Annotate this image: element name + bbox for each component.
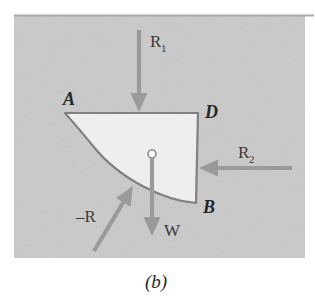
figure-container: A D B R 1 R 2 W –R (b) — [0, 0, 315, 300]
centroid-marker — [148, 150, 156, 158]
force-label-r1-subscript: 1 — [161, 42, 167, 54]
free-body-diagram: A D B R 1 R 2 W –R (b) — [0, 0, 315, 300]
figure-caption: (b) — [145, 271, 167, 293]
force-label-minus-r: –R — [75, 207, 97, 226]
vertex-label-d: D — [204, 102, 218, 122]
vertex-label-b: B — [202, 197, 215, 217]
force-label-w: W — [164, 221, 181, 240]
vertex-label-a: A — [62, 89, 75, 109]
force-label-r2-subscript: 2 — [249, 153, 255, 165]
